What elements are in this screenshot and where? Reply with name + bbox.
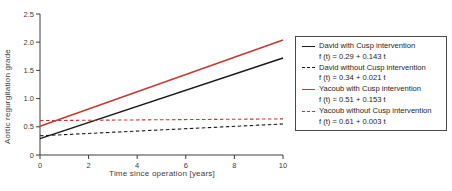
legend-series-name: Yacoub with Cusp intervention xyxy=(319,84,421,95)
legend-series-name: David without Cusp intervention xyxy=(319,63,426,74)
y-tick-label: 2.5 xyxy=(24,10,34,19)
legend-line-swatch-solid xyxy=(302,46,315,47)
x-axis-title: Time since operation [years] xyxy=(62,169,262,178)
legend-name-row: Yacoub with Cusp intervention xyxy=(302,84,442,95)
legend-name-row: David with Cusp intervention xyxy=(302,41,442,52)
legend-series-formula: f (t) = 0.34 + 0.021 t xyxy=(302,73,442,84)
legend-series-formula: f (t) = 0.51 + 0.153 t xyxy=(302,95,442,106)
legend-name-row: Yacoub without Cusp intervention xyxy=(302,106,442,117)
series-line-yacoub-with-cusp-intervention xyxy=(40,40,283,126)
y-tick-label: 0 xyxy=(30,151,34,160)
y-tick-label: 1.0 xyxy=(24,94,34,103)
y-tick-label: 0.5 xyxy=(24,122,34,131)
y-axis-title: Aortic regurgitation grade xyxy=(3,17,12,177)
legend-series-formula: f (t) = 0.61 + 0.003 t xyxy=(302,117,442,128)
legend-name-row: David without Cusp intervention xyxy=(302,63,442,74)
legend-series-formula: f (t) = 0.29 + 0.143 t xyxy=(302,52,442,63)
legend-series-name: Yacoub without Cusp intervention xyxy=(319,106,432,117)
series-line-yacoub-without-cusp-intervention xyxy=(40,119,283,121)
legend-line-swatch-solid xyxy=(302,89,315,90)
x-tick-label: 10 xyxy=(279,161,287,170)
y-tick-label: 1.5 xyxy=(24,66,34,75)
legend-line-swatch-dashed xyxy=(302,111,315,112)
series-line-david-with-cusp-intervention xyxy=(40,58,283,139)
legend-line-swatch-dashed xyxy=(302,67,315,68)
legend-entry-yacoub-with-cusp-intervention: Yacoub with Cusp interventionf (t) = 0.5… xyxy=(302,84,442,106)
chart-canvas: 00.51.01.52.02.50246810 Aortic regurgita… xyxy=(0,0,452,191)
legend-entry-david-with-cusp-intervention: David with Cusp interventionf (t) = 0.29… xyxy=(302,41,442,63)
x-tick-label: 0 xyxy=(38,161,42,170)
legend-series-name: David with Cusp intervention xyxy=(319,41,415,52)
y-tick-label: 2.0 xyxy=(24,38,34,47)
legend-entry-yacoub-without-cusp-intervention: Yacoub without Cusp interventionf (t) = … xyxy=(302,106,442,128)
legend-entry-david-without-cusp-intervention: David without Cusp interventionf (t) = 0… xyxy=(302,63,442,85)
legend: David with Cusp interventionf (t) = 0.29… xyxy=(295,36,447,131)
